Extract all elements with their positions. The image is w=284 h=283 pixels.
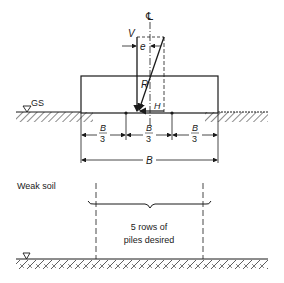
dimension-thirds: B 3 B 3 B 3	[82, 123, 217, 144]
svg-text:3: 3	[100, 134, 105, 144]
soil-hatch	[16, 260, 268, 269]
weak-soil-label: Weak soil	[17, 181, 56, 191]
resultant-label: R	[141, 79, 148, 90]
svg-text:3: 3	[192, 134, 197, 144]
water-table-icon	[23, 106, 31, 112]
centerline-symbol: ℄	[145, 10, 153, 22]
footing-section: ℄ GS V R H	[16, 10, 268, 163]
svg-text:B: B	[146, 155, 153, 166]
ground-hatch-left	[16, 112, 93, 122]
svg-text:B: B	[146, 123, 152, 133]
svg-text:3: 3	[146, 134, 151, 144]
eccentricity-label: e	[140, 41, 146, 52]
vertical-load-label: V	[128, 28, 136, 39]
pile-layout-section: Weak soil 5 rows of piles desired	[16, 181, 268, 269]
ground-hatch-right	[205, 112, 268, 122]
svg-text:B: B	[192, 123, 198, 133]
pile-note-line2: piles desired	[124, 235, 175, 245]
dimension-total-width: B	[82, 155, 217, 166]
footing-block	[81, 76, 218, 113]
pile-note-line1: 5 rows of	[131, 222, 168, 232]
ground-surface-label: GS	[31, 98, 44, 108]
pile-footing-diagram: ℄ GS V R H	[0, 0, 284, 283]
svg-text:B: B	[100, 123, 106, 133]
water-table-icon-lower	[23, 253, 30, 259]
pile-group-brace	[88, 201, 211, 208]
horizontal-load-label: H	[154, 101, 161, 111]
